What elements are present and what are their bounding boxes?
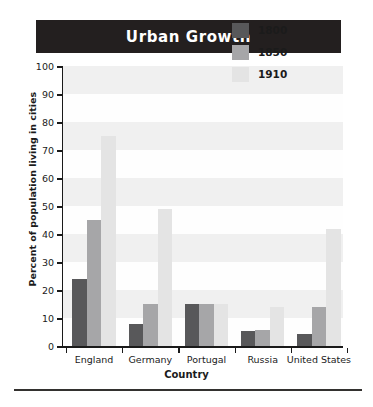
bar-1910-russia	[270, 307, 285, 346]
y-tick-mark	[57, 150, 62, 151]
x-tick-mark	[66, 348, 67, 353]
y-tick-label: 40	[42, 229, 54, 240]
y-tick-label: 30	[42, 257, 54, 268]
bar-1850-germany	[143, 304, 158, 346]
y-tick-mark	[57, 178, 62, 179]
y-tick-mark	[57, 290, 62, 291]
plot-box: 0102030405060708090100	[62, 66, 343, 348]
bar-1910-germany	[158, 209, 173, 346]
x-tick-mark	[122, 348, 123, 353]
y-tick-mark	[57, 94, 62, 95]
y-tick-label: 70	[42, 145, 54, 156]
bar-1850-russia	[255, 330, 270, 347]
bar-group	[185, 66, 229, 346]
bar-1800-england	[72, 279, 87, 346]
bar-1800-portugal	[185, 304, 200, 346]
legend-swatch-1910	[232, 67, 249, 82]
y-tick-label: 50	[42, 201, 54, 212]
bar-group	[72, 66, 116, 346]
y-tick-label: 60	[42, 173, 54, 184]
y-tick-label: 80	[42, 117, 54, 128]
x-tick-mark	[291, 348, 292, 353]
y-tick-mark	[57, 262, 62, 263]
legend-swatch-1850	[232, 45, 249, 60]
legend-label-1800: 1800	[258, 24, 287, 36]
legend-item-1850: 1850	[232, 42, 328, 62]
bar-1800-united-states	[297, 334, 312, 347]
y-tick-mark	[57, 346, 62, 347]
x-tick-label-germany: Germany	[128, 354, 172, 365]
chart-legend: 180018501910	[232, 20, 328, 86]
y-axis-line	[62, 66, 63, 348]
bar-group	[241, 66, 285, 346]
x-tick-mark	[178, 348, 179, 353]
bar-1850-england	[87, 220, 102, 346]
bar-1850-united-states	[312, 307, 327, 346]
legend-item-1800: 1800	[232, 20, 328, 40]
legend-swatch-1800	[232, 23, 249, 38]
y-tick-mark	[57, 122, 62, 123]
y-tick-mark	[57, 206, 62, 207]
bar-1850-portugal	[199, 304, 214, 346]
x-axis-title: Country	[0, 369, 373, 380]
y-tick-label: 100	[36, 61, 54, 72]
y-tick-mark	[57, 234, 62, 235]
y-tick-label: 10	[42, 313, 54, 324]
y-tick-label: 90	[42, 89, 54, 100]
y-tick-label: 0	[48, 341, 54, 352]
bar-1910-england	[101, 136, 116, 346]
x-tick-label-portugal: Portugal	[187, 354, 226, 365]
bar-group	[129, 66, 173, 346]
bottom-divider	[14, 389, 362, 391]
y-tick-mark	[57, 318, 62, 319]
x-tick-mark	[235, 348, 236, 353]
x-axis-line	[62, 346, 343, 348]
x-tick-label-russia: Russia	[247, 354, 278, 365]
bar-1800-russia	[241, 331, 256, 346]
bar-group	[297, 66, 341, 346]
chart-figure: Urban Growth Percent of population livin…	[0, 0, 373, 407]
bar-1910-united-states	[326, 229, 341, 347]
bar-1910-portugal	[214, 304, 229, 346]
x-tick-mark	[347, 348, 348, 353]
x-tick-label-england: England	[75, 354, 114, 365]
legend-label-1850: 1850	[258, 46, 287, 58]
bar-1800-germany	[129, 324, 144, 346]
chart-plot-region: Percent of population living in cities 0…	[0, 58, 373, 358]
y-tick-label: 20	[42, 285, 54, 296]
y-axis-title: Percent of population living in cities	[27, 97, 38, 287]
x-tick-label-united-states: United States	[287, 354, 351, 365]
legend-item-1910: 1910	[232, 64, 328, 84]
y-tick-mark	[57, 66, 62, 67]
legend-label-1910: 1910	[258, 68, 287, 80]
